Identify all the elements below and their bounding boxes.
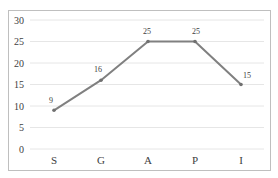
data-point-marker [146, 40, 150, 44]
x-axis-labels: S G A P I [51, 154, 243, 166]
data-label: 25 [192, 27, 200, 36]
data-point-marker [239, 83, 243, 87]
line-chart: 30 25 20 15 10 5 0 S G A P I 9 16 25 25 … [0, 0, 278, 178]
y-tick-label: 30 [14, 15, 24, 26]
series-line [52, 40, 243, 112]
y-tick-label: 10 [14, 101, 24, 112]
y-tick-label: 5 [19, 122, 24, 133]
data-label: 25 [143, 27, 151, 36]
data-point-marker [193, 40, 197, 44]
y-tick-label: 0 [19, 144, 24, 155]
gridlines [30, 20, 264, 149]
y-axis-labels: 30 25 20 15 10 5 0 [14, 15, 24, 155]
y-tick-label: 15 [14, 79, 24, 90]
x-category-label: I [239, 154, 243, 166]
x-category-label: A [144, 154, 152, 166]
y-tick-label: 20 [14, 58, 24, 69]
x-category-label: G [97, 154, 105, 166]
x-category-label: P [192, 154, 198, 166]
x-category-label: S [51, 154, 57, 166]
data-label: 9 [49, 96, 53, 105]
data-point-marker [99, 78, 103, 82]
data-point-marker [52, 109, 56, 113]
data-label: 15 [243, 71, 251, 80]
data-label: 16 [94, 65, 102, 74]
y-tick-label: 25 [14, 36, 24, 47]
